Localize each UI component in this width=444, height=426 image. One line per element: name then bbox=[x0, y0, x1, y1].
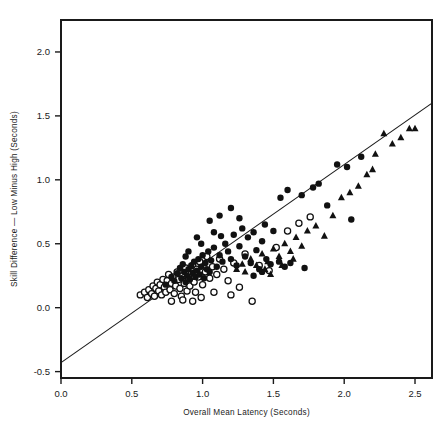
data-point-filled-circle bbox=[334, 161, 340, 167]
plot-canvas: 0.00.51.01.52.02.5 -0.50.00.51.01.52.0 O… bbox=[0, 0, 444, 426]
data-point-filled-triangle bbox=[329, 212, 336, 219]
x-axis-title: Overall Mean Latency (Seconds) bbox=[183, 408, 310, 417]
regression-line bbox=[61, 103, 432, 363]
data-point-filled-circle bbox=[348, 216, 354, 222]
data-point-filled-circle bbox=[228, 256, 234, 262]
data-point-filled-circle bbox=[187, 276, 193, 282]
data-point-open-circle bbox=[192, 289, 198, 295]
data-point-filled-triangle bbox=[369, 166, 376, 173]
data-point-open-circle bbox=[236, 284, 242, 290]
data-point-filled-triangle bbox=[406, 125, 413, 132]
data-point-filled-triangle bbox=[338, 194, 345, 201]
data-point-filled-circle bbox=[218, 233, 224, 239]
data-point-filled-circle bbox=[171, 278, 177, 284]
data-point-filled-circle bbox=[299, 192, 305, 198]
data-point-filled-circle bbox=[344, 164, 350, 170]
y-tick-label: 0.0 bbox=[37, 302, 50, 313]
data-point-open-circle bbox=[190, 298, 196, 304]
y-tick-label: 1.0 bbox=[37, 174, 50, 185]
data-point-open-circle bbox=[168, 298, 174, 304]
y-tick-label: 1.5 bbox=[37, 110, 50, 121]
scatter-plot-figure: 0.00.51.01.52.02.5 -0.50.00.51.01.52.0 O… bbox=[0, 0, 444, 426]
series-filled-triangle bbox=[233, 125, 418, 277]
data-point-filled-circle bbox=[211, 244, 217, 250]
data-point-filled-circle bbox=[262, 221, 268, 227]
data-point-markers bbox=[137, 125, 418, 305]
data-point-open-circle bbox=[284, 228, 290, 234]
data-point-filled-circle bbox=[216, 252, 222, 258]
data-point-filled-circle bbox=[201, 275, 207, 281]
data-point-filled-triangle bbox=[380, 130, 387, 137]
data-point-filled-circle bbox=[199, 252, 205, 258]
data-point-filled-triangle bbox=[281, 240, 288, 247]
data-point-filled-circle bbox=[250, 229, 256, 235]
x-tick-label: 2.0 bbox=[338, 388, 351, 399]
data-point-filled-triangle bbox=[397, 134, 404, 141]
data-point-filled-circle bbox=[225, 248, 231, 254]
data-point-open-circle bbox=[180, 297, 186, 303]
x-tick-label: 2.5 bbox=[408, 388, 421, 399]
data-point-filled-circle bbox=[211, 229, 217, 235]
y-axis-title: Skill Difference — Low Minus High (Secon… bbox=[10, 111, 19, 287]
data-point-filled-circle bbox=[180, 261, 186, 267]
data-point-filled-triangle bbox=[312, 222, 319, 229]
data-point-filled-circle bbox=[236, 243, 242, 249]
data-point-filled-circle bbox=[222, 241, 228, 247]
data-point-filled-triangle bbox=[247, 255, 254, 262]
data-point-filled-circle bbox=[163, 281, 169, 287]
data-point-open-circle bbox=[228, 292, 234, 298]
data-point-filled-triangle bbox=[242, 268, 249, 275]
x-axis-tick-labels: 0.00.51.01.52.02.5 bbox=[54, 388, 421, 399]
data-point-filled-circle bbox=[242, 253, 248, 259]
data-point-filled-triangle bbox=[412, 125, 419, 132]
x-tick-label: 1.0 bbox=[196, 388, 209, 399]
y-axis-tick-labels: -0.50.00.51.01.52.0 bbox=[34, 46, 50, 377]
data-point-filled-triangle bbox=[372, 150, 379, 157]
data-point-open-circle bbox=[198, 294, 204, 300]
data-point-filled-circle bbox=[277, 195, 283, 201]
data-point-filled-circle bbox=[250, 273, 256, 279]
data-point-filled-circle bbox=[284, 187, 290, 193]
data-point-filled-circle bbox=[219, 258, 225, 264]
data-point-filled-triangle bbox=[276, 253, 283, 260]
data-point-open-circle bbox=[225, 278, 231, 284]
data-point-filled-triangle bbox=[321, 232, 328, 239]
data-point-open-circle bbox=[171, 291, 177, 297]
series-open-circle bbox=[137, 214, 313, 305]
data-point-filled-circle bbox=[259, 238, 265, 244]
data-point-filled-triangle bbox=[239, 260, 246, 267]
data-point-filled-circle bbox=[206, 218, 212, 224]
y-tick-label: 0.5 bbox=[37, 238, 50, 249]
data-point-open-circle bbox=[307, 214, 313, 220]
data-point-filled-triangle bbox=[290, 255, 297, 262]
data-point-filled-triangle bbox=[346, 189, 353, 196]
y-tick-label: 2.0 bbox=[37, 46, 50, 57]
data-point-filled-circle bbox=[206, 269, 212, 275]
data-point-filled-circle bbox=[301, 265, 307, 271]
data-point-filled-circle bbox=[205, 248, 211, 254]
data-point-filled-circle bbox=[310, 184, 316, 190]
data-point-filled-triangle bbox=[355, 182, 362, 189]
data-point-filled-circle bbox=[194, 234, 200, 240]
data-point-filled-circle bbox=[324, 202, 330, 208]
data-point-filled-circle bbox=[214, 264, 220, 270]
x-tick-label: 0.0 bbox=[54, 388, 67, 399]
data-point-filled-circle bbox=[253, 247, 259, 253]
data-point-filled-circle bbox=[358, 154, 364, 160]
data-point-open-circle bbox=[214, 271, 220, 277]
data-point-filled-circle bbox=[202, 260, 208, 266]
data-point-filled-circle bbox=[236, 215, 242, 221]
data-point-open-circle bbox=[221, 266, 227, 272]
data-point-open-circle bbox=[296, 220, 302, 226]
data-point-filled-triangle bbox=[259, 250, 266, 257]
data-point-filled-triangle bbox=[298, 242, 305, 249]
data-point-filled-circle bbox=[231, 232, 237, 238]
data-point-filled-circle bbox=[239, 225, 245, 231]
data-point-filled-triangle bbox=[304, 227, 311, 234]
data-point-open-circle bbox=[207, 275, 213, 281]
data-point-filled-circle bbox=[270, 228, 276, 234]
data-point-filled-circle bbox=[208, 257, 214, 263]
data-point-open-circle bbox=[249, 298, 255, 304]
y-tick-label: -0.5 bbox=[34, 366, 50, 377]
data-point-filled-triangle bbox=[293, 233, 300, 240]
